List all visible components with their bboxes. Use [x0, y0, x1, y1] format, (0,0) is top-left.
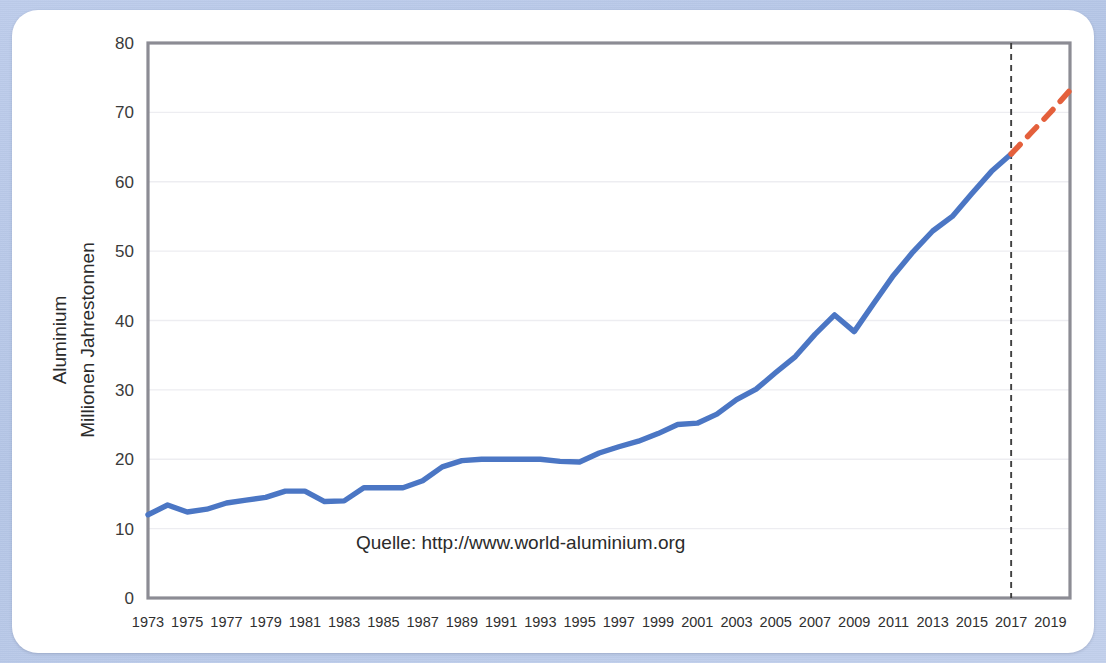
x-tick-label: 1999: [642, 614, 674, 630]
x-tick-label: 1985: [367, 614, 399, 630]
chart-plot-area: 01020304050607080 1973197519771979198119…: [12, 10, 1094, 653]
x-tick-label: 1987: [407, 614, 439, 630]
y-tick-label: 40: [115, 312, 134, 331]
x-tick-label: 1997: [603, 614, 635, 630]
x-tick-label: 2011: [878, 614, 909, 630]
x-tick-label: 2009: [838, 614, 870, 630]
y-axis-tick-labels: 01020304050607080: [115, 34, 134, 608]
chart-card: 01020304050607080 1973197519771979198119…: [12, 10, 1094, 653]
aluminium-production-line-chart: 01020304050607080 1973197519771979198119…: [12, 10, 1094, 653]
y-tick-label: 30: [115, 381, 134, 400]
x-tick-label: 2001: [681, 614, 713, 630]
y-tick-label: 20: [115, 450, 134, 469]
gridlines: [148, 112, 1070, 528]
y-tick-label: 10: [115, 520, 134, 539]
x-tick-label: 2017: [995, 614, 1027, 630]
x-tick-label: 1991: [485, 614, 517, 630]
x-tick-label: 1981: [289, 614, 321, 630]
figure-page: 01020304050607080 1973197519771979198119…: [0, 0, 1106, 663]
x-tick-label: 2013: [917, 614, 949, 630]
source-note: Quelle: http://www.world-aluminium.org: [356, 532, 685, 553]
x-tick-label: 1973: [132, 614, 164, 630]
y-axis-title-line2: Millionen Jahrestonnen: [77, 242, 98, 437]
y-tick-label: 60: [115, 173, 134, 192]
x-tick-label: 2003: [720, 614, 752, 630]
y-tick-label: 80: [115, 34, 134, 53]
y-tick-label: 70: [115, 103, 134, 122]
y-tick-label: 0: [125, 589, 134, 608]
y-axis-title-line1: Aluminium: [49, 296, 70, 385]
series-line-actual: [148, 154, 1011, 515]
x-tick-label: 1995: [563, 614, 595, 630]
x-axis-tick-labels: 1973197519771979198119831985198719891991…: [132, 614, 1067, 630]
series-line-forecast: [1011, 90, 1070, 154]
x-tick-label: 2007: [799, 614, 831, 630]
x-tick-label: 1975: [171, 614, 203, 630]
x-tick-label: 2019: [1034, 614, 1066, 630]
x-tick-label: 1983: [328, 614, 360, 630]
x-tick-label: 2005: [760, 614, 792, 630]
x-tick-label: 1977: [210, 614, 242, 630]
x-tick-label: 1979: [250, 614, 282, 630]
x-tick-label: 1993: [524, 614, 556, 630]
x-tick-label: 1989: [446, 614, 478, 630]
y-tick-label: 50: [115, 242, 134, 261]
x-tick-label: 2015: [956, 614, 988, 630]
y-axis-title: Aluminium Millionen Jahrestonnen: [49, 242, 98, 437]
